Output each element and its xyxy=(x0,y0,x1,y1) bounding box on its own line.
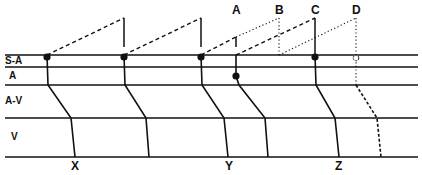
top-label-c: C xyxy=(311,3,320,17)
row-label-a: A xyxy=(9,70,16,81)
atrial-dot xyxy=(232,72,239,79)
sa-dot-c xyxy=(311,53,318,60)
top-label-b: B xyxy=(275,3,284,17)
sa-open-circle-d xyxy=(353,55,359,61)
sa-conduction-dashed xyxy=(47,18,315,55)
bottom-label-x: X xyxy=(71,159,79,173)
ladder-diagram: S-A A A-V V A B xyxy=(0,0,422,175)
dashed-line-1 xyxy=(47,18,124,55)
conduction-path-dashed xyxy=(356,85,381,157)
dashed-line-4 xyxy=(236,18,315,55)
top-label-d: D xyxy=(352,3,361,17)
dashed-line-3 xyxy=(201,37,236,55)
conduction-paths xyxy=(47,55,339,157)
sa-dot-1 xyxy=(43,53,50,60)
top-label-a: A xyxy=(232,3,241,17)
conduction-path-3 xyxy=(201,55,228,157)
bottom-label-y: Y xyxy=(225,159,233,173)
conduction-path-2 xyxy=(124,55,149,157)
sa-dot-2 xyxy=(120,53,127,60)
row-label-sa: S-A xyxy=(5,55,22,66)
hypothetical-dotted xyxy=(236,18,356,85)
bottom-label-z: Z xyxy=(335,159,342,173)
conduction-path-5 xyxy=(315,55,339,157)
dotted-a-to-b xyxy=(236,18,279,37)
sa-dot-3 xyxy=(197,53,204,60)
conduction-path-1 xyxy=(47,55,75,157)
conduction-path-4 xyxy=(236,55,268,157)
sinus-bars xyxy=(124,18,315,55)
row-label-v: V xyxy=(11,131,18,142)
dotted-b-to-d xyxy=(279,18,356,55)
dashed-line-2 xyxy=(124,18,201,55)
row-label-av: A-V xyxy=(5,95,23,106)
